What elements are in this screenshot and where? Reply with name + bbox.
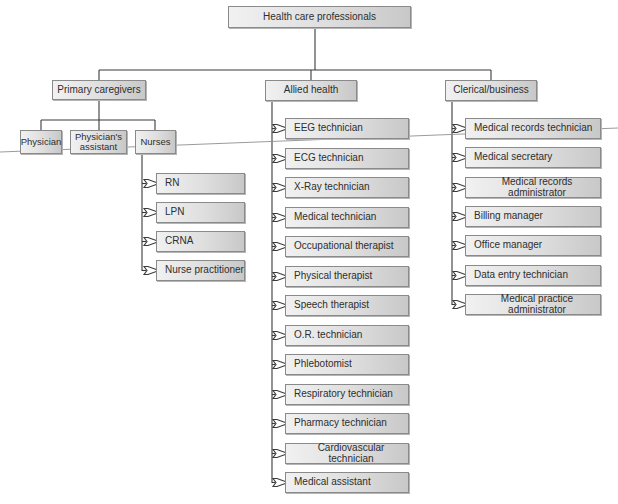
node-x-ray-technician: X-Ray technician xyxy=(285,177,409,198)
node-nurse-practitioner: Nurse practitioner xyxy=(156,260,245,281)
node-phlebotomist: Phlebotomist xyxy=(285,354,409,375)
category-clerical-business: Clerical/business xyxy=(445,80,537,101)
category-allied-health: Allied health xyxy=(265,80,357,101)
node-physicians-assistant: Physician's assistant xyxy=(70,130,127,154)
node-nurses: Nurses xyxy=(135,130,176,154)
node-pharmacy-technician: Pharmacy technician xyxy=(285,413,409,434)
node-medical-records-administrator: Medical records administrator xyxy=(465,177,601,198)
node-occupational-therapist: Occupational therapist xyxy=(285,236,409,257)
org-chart: Health care professionals Primary caregi… xyxy=(0,0,618,504)
root-node: Health care professionals xyxy=(228,6,411,28)
node-physical-therapist: Physical therapist xyxy=(285,266,409,287)
category-primary-caregivers: Primary caregivers xyxy=(52,80,146,100)
node-physician: Physician xyxy=(20,130,62,154)
node-medical-technician: Medical technician xyxy=(285,207,409,228)
node-ecg-technician: ECG technician xyxy=(285,148,409,169)
node-office-manager: Office manager xyxy=(465,235,601,256)
node-data-entry-technician: Data entry technician xyxy=(465,265,601,286)
node-crna: CRNA xyxy=(156,231,245,252)
node-billing-manager: Billing manager xyxy=(465,206,601,227)
node-medical-assistant: Medical assistant xyxy=(285,472,409,493)
node-eeg-technician: EEG technician xyxy=(285,118,409,139)
node-o-r-technician: O.R. technician xyxy=(285,325,409,346)
node-lpn: LPN xyxy=(156,202,245,223)
node-medical-practice-administrator: Medical practice administrator xyxy=(465,294,601,315)
node-medical-records-technician: Medical records technician xyxy=(465,118,601,139)
node-speech-therapist: Speech therapist xyxy=(285,295,409,316)
node-rn: RN xyxy=(156,173,245,194)
node-medical-secretary: Medical secretary xyxy=(465,147,601,168)
node-cardiovascular-technician: Cardiovascular technician xyxy=(285,443,409,464)
node-respiratory-technician: Respiratory technician xyxy=(285,384,409,405)
